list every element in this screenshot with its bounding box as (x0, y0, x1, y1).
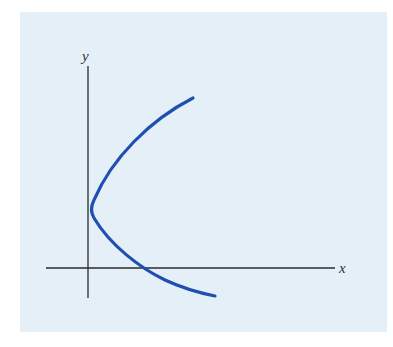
parabola-curve (92, 98, 216, 296)
graph: y x (0, 0, 393, 347)
y-axis-label: y (80, 48, 89, 64)
x-axis-label: x (338, 260, 346, 276)
